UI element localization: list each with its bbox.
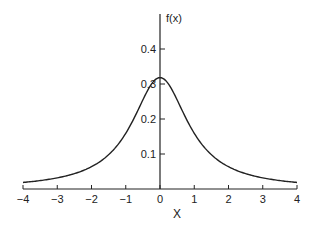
x-axis-label: X <box>173 207 181 221</box>
axes <box>23 14 297 189</box>
x-ticks: −4−3−2−101234 <box>17 185 300 205</box>
x-tick-label: 2 <box>225 193 231 205</box>
cauchy-density-chart: −4−3−2−101234 0.10.20.30.4 X f(x) <box>0 0 313 227</box>
x-tick-label: −4 <box>17 193 30 205</box>
x-tick-label: −3 <box>51 193 64 205</box>
x-tick-label: −1 <box>119 193 132 205</box>
x-tick-label: 3 <box>260 193 266 205</box>
y-tick-label: 0.1 <box>141 148 156 160</box>
y-axis-label: f(x) <box>166 12 182 24</box>
y-tick-label: 0.4 <box>141 43 156 55</box>
x-tick-label: −2 <box>85 193 98 205</box>
y-tick-label: 0.2 <box>141 113 156 125</box>
x-tick-label: 4 <box>294 193 300 205</box>
y-ticks: 0.10.20.30.4 <box>141 43 165 160</box>
x-tick-label: 1 <box>191 193 197 205</box>
x-tick-label: 0 <box>157 193 163 205</box>
